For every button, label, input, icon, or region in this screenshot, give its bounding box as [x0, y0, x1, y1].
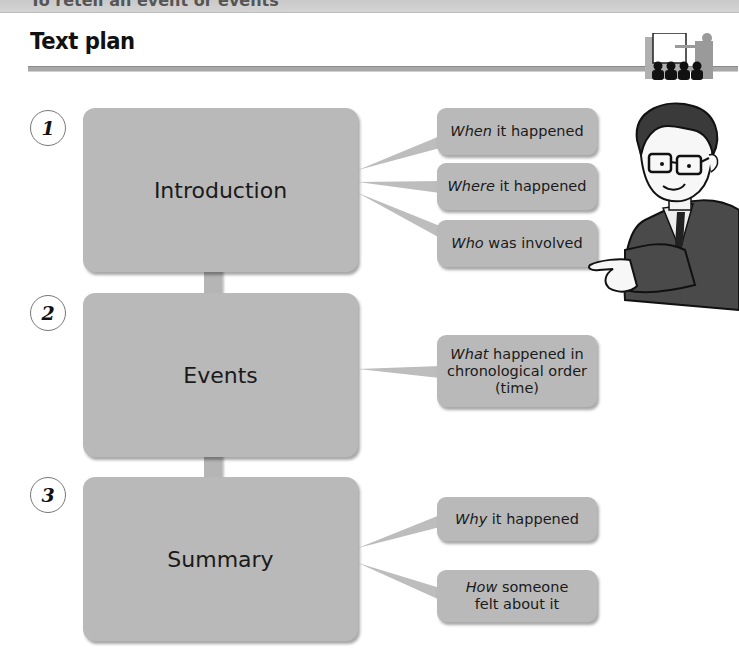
section-box-events: Events	[83, 293, 358, 457]
step-number-3: 3	[30, 477, 66, 513]
callout-keyword: How	[466, 579, 498, 595]
callout-keyword: What	[450, 346, 488, 362]
step-number-2: 2	[30, 295, 66, 331]
callout-when: When it happened	[437, 108, 597, 155]
connector-1-2	[204, 270, 222, 295]
presenter-audience-icon	[645, 33, 735, 81]
callout-what: What happened in chronological order (ti…	[437, 335, 597, 407]
callout-how: How someone felt about it	[437, 570, 597, 622]
callout-keyword: Why	[455, 511, 487, 527]
callout-text: it happened	[495, 178, 587, 194]
callout-keyword: When	[450, 123, 492, 139]
callout-text: it happened	[487, 511, 579, 527]
title-divider	[28, 66, 738, 72]
callout-why: Why it happened	[437, 497, 597, 541]
callout-keyword: Who	[451, 235, 483, 251]
callout-text: it happened	[492, 123, 584, 139]
callout-keyword: Where	[448, 178, 495, 194]
teacher-pointing-illustration	[585, 100, 739, 315]
callout-text: was involved	[484, 235, 583, 251]
banner-text: To retell an event or events	[30, 0, 279, 10]
top-banner: To retell an event or events	[0, 0, 739, 13]
section-box-summary: Summary	[83, 477, 358, 641]
page-title: Text plan	[30, 28, 135, 54]
callout-where: Where it happened	[437, 163, 597, 210]
section-label: Events	[183, 363, 258, 388]
callout-who: Who was involved	[437, 220, 597, 267]
step-number-1: 1	[30, 110, 66, 146]
section-label: Summary	[167, 547, 273, 572]
section-box-introduction: Introduction	[83, 108, 358, 272]
section-label: Introduction	[154, 178, 287, 203]
